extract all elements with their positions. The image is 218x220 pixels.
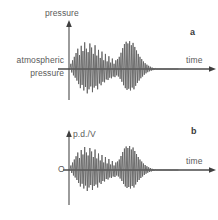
panel-b-y-axis-label: p.d./V xyxy=(73,129,96,139)
panel-a: pressure time atmospheric pressure a xyxy=(0,0,218,110)
panel-a-y-axis-label: pressure xyxy=(45,8,79,18)
panel-a-baseline-label-line2: pressure xyxy=(2,68,64,78)
panel-b-origin-label: O xyxy=(58,164,65,174)
panel-a-waveform xyxy=(70,41,178,93)
waveform-figure: pressure time atmospheric pressure a p.d… xyxy=(0,0,218,220)
panel-b-x-axis-label: time xyxy=(186,156,202,166)
panel-a-x-axis-label: time xyxy=(186,55,202,65)
panel-a-y-axis xyxy=(66,20,72,100)
panel-a-letter: a xyxy=(190,27,195,37)
panel-b-waveform xyxy=(70,146,178,191)
panel-a-baseline-label-line1: atmospheric xyxy=(2,55,64,65)
panel-b: p.d./V time O b xyxy=(0,110,218,220)
panel-b-letter: b xyxy=(191,126,197,136)
